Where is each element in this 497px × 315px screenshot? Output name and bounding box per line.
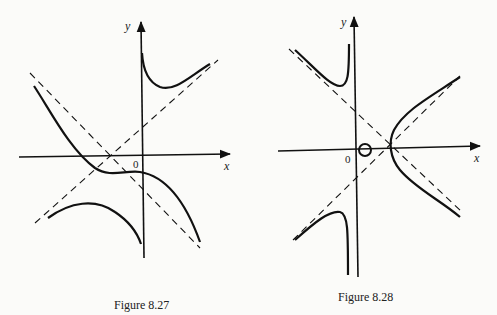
asymptote-line xyxy=(35,60,218,223)
x-axis xyxy=(19,154,230,157)
y-axis-label: y xyxy=(124,19,131,33)
origin-label: 0 xyxy=(345,153,351,165)
x-axis xyxy=(278,146,480,151)
figure-caption: Figure 8.28 xyxy=(338,290,393,305)
curve-branch-upper-left xyxy=(295,44,349,86)
figure-8-27: y x 0 xyxy=(19,19,230,258)
figures-canvas: y x 0 y x 0 xyxy=(0,0,497,315)
x-axis-label: x xyxy=(223,159,230,173)
figure-caption: Figure 8.27 xyxy=(114,298,169,313)
x-axis-label: x xyxy=(473,151,480,165)
curve-branch-lower-left xyxy=(295,212,348,275)
asymptote-line xyxy=(293,76,460,240)
isolated-point-circle xyxy=(359,144,371,156)
y-axis xyxy=(354,17,358,277)
curve-branch-lower xyxy=(48,203,141,244)
curve-branch-middle xyxy=(34,86,200,242)
origin-label: 0 xyxy=(133,158,139,170)
asymptote-line xyxy=(289,49,463,213)
curve-branch-upper-right xyxy=(142,53,210,88)
figure-8-28: y x 0 xyxy=(278,15,480,277)
y-axis-label: y xyxy=(340,15,347,29)
